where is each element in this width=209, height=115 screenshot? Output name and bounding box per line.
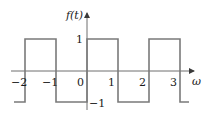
x-tick-neg1: −1: [42, 76, 58, 89]
x-tick-2: 2: [139, 76, 146, 89]
x-tick-0: 0: [77, 76, 84, 89]
y-tick-high: 1: [76, 33, 83, 46]
square-wave-diagram: f(t) ω 1 −1 −2 −1 0 1 2 3: [0, 0, 209, 115]
x-tick-neg2: −2: [11, 76, 27, 89]
y-axis-label: f(t): [65, 9, 83, 22]
x-tick-1: 1: [108, 76, 115, 89]
x-axis-label: ω: [192, 75, 201, 88]
x-tick-3: 3: [170, 76, 177, 89]
y-tick-low: −1: [89, 97, 105, 110]
